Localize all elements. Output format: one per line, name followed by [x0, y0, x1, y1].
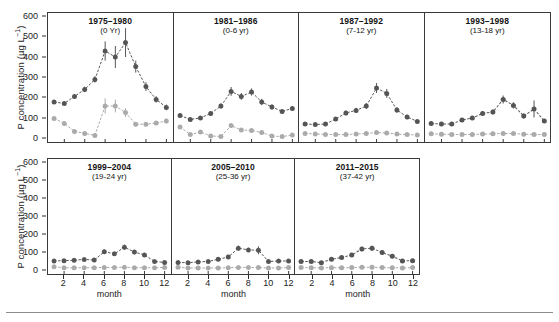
- data-point-marker: [313, 122, 318, 127]
- data-point-marker: [52, 100, 57, 105]
- y-tick-mark: [42, 179, 46, 180]
- data-point-marker: [82, 131, 87, 136]
- data-point-marker: [400, 258, 405, 263]
- panel-plot-area: [172, 159, 295, 274]
- data-point-marker: [113, 104, 118, 109]
- data-point-marker: [384, 131, 389, 136]
- data-point-marker: [333, 117, 338, 122]
- data-point-marker: [102, 265, 107, 270]
- data-point-marker: [175, 260, 180, 265]
- panel-strip: 1999–2004(19-24 yr)2005–2010(25-36 yr)20…: [47, 158, 420, 275]
- series-line: [305, 133, 417, 135]
- data-point-marker: [152, 265, 157, 270]
- data-point-marker: [269, 134, 274, 139]
- data-point-marker: [249, 90, 254, 95]
- data-point-marker: [374, 86, 379, 91]
- data-point-marker: [354, 132, 359, 137]
- data-point-marker: [72, 265, 77, 270]
- data-point-marker: [72, 129, 77, 134]
- data-point-marker: [428, 121, 433, 126]
- data-point-marker: [510, 131, 515, 136]
- y-tick-mark: [42, 117, 46, 118]
- data-point-marker: [480, 132, 485, 137]
- data-point-marker: [215, 257, 220, 262]
- data-point-marker: [143, 122, 148, 127]
- data-point-marker: [132, 265, 137, 270]
- panel-plot-area: [174, 13, 299, 142]
- y-tick-mark: [42, 97, 46, 98]
- data-point-marker: [208, 111, 213, 116]
- series-line: [54, 43, 166, 108]
- data-point-marker: [350, 252, 355, 257]
- data-point-marker: [236, 265, 241, 270]
- data-point-marker: [215, 265, 220, 270]
- data-point-marker: [164, 119, 169, 124]
- data-point-marker: [123, 40, 128, 45]
- data-point-marker: [238, 94, 243, 99]
- series-line: [54, 247, 165, 262]
- data-point-marker: [225, 255, 230, 260]
- y-tick-label: 200: [23, 93, 38, 102]
- data-point-marker: [205, 265, 210, 270]
- data-point-marker: [299, 265, 304, 270]
- data-point-marker: [143, 84, 148, 89]
- x-axis-title: month: [47, 289, 171, 299]
- data-point-marker: [102, 249, 107, 254]
- data-point-marker: [133, 122, 138, 127]
- y-tick-mark: [42, 216, 46, 217]
- data-point-marker: [276, 258, 281, 263]
- chart-panel: 1981–1986(0-6 yr): [174, 13, 300, 142]
- data-point-marker: [185, 265, 190, 270]
- data-point-marker: [225, 265, 230, 270]
- data-point-marker: [249, 128, 254, 133]
- chart-panel: 2005–2010(25-36 yr): [172, 159, 296, 274]
- data-point-marker: [236, 246, 241, 251]
- x-axis-title: month: [171, 289, 295, 299]
- data-point-marker: [541, 132, 546, 137]
- data-point-marker: [238, 128, 243, 133]
- series-line: [431, 99, 544, 124]
- data-point-marker: [360, 265, 365, 270]
- x-tick-label: 12: [159, 279, 169, 288]
- data-point-marker: [218, 134, 223, 139]
- data-point-marker: [72, 258, 77, 263]
- y-tick-label: 200: [23, 230, 38, 239]
- data-point-marker: [276, 265, 281, 270]
- y-tick-mark: [42, 252, 46, 253]
- data-point-marker: [319, 260, 324, 265]
- x-tick-label: 2: [185, 279, 190, 288]
- y-tick-mark: [42, 76, 46, 77]
- data-point-marker: [185, 260, 190, 265]
- data-point-marker: [428, 131, 433, 136]
- data-point-marker: [92, 77, 97, 82]
- data-point-marker: [208, 134, 213, 139]
- data-point-marker: [531, 132, 536, 137]
- data-point-marker: [309, 259, 314, 264]
- x-tick-label: 4: [330, 279, 335, 288]
- y-tick-label: 500: [23, 175, 38, 184]
- data-point-marker: [164, 105, 169, 110]
- data-point-marker: [299, 259, 304, 264]
- data-point-marker: [52, 116, 57, 121]
- data-point-marker: [309, 265, 314, 270]
- data-point-marker: [175, 265, 180, 270]
- series-line: [301, 267, 412, 268]
- data-point-marker: [266, 259, 271, 264]
- data-point-marker: [364, 131, 369, 136]
- data-point-marker: [303, 131, 308, 136]
- data-point-marker: [350, 265, 355, 270]
- panel-plot-area: [48, 159, 171, 274]
- series-line: [180, 91, 292, 119]
- panel-strip: 1975–1980(0 Yr)1981–1986(0-6 yr)1987–199…: [47, 12, 551, 143]
- data-point-marker: [384, 91, 389, 96]
- data-point-marker: [279, 109, 284, 114]
- data-point-marker: [82, 87, 87, 92]
- x-tick-label: 6: [350, 279, 355, 288]
- y-tick-label: 500: [23, 32, 38, 41]
- data-point-marker: [269, 105, 274, 110]
- y-tick-mark: [42, 16, 46, 17]
- data-point-marker: [187, 132, 192, 137]
- data-point-marker: [410, 265, 415, 270]
- series-line: [301, 248, 412, 263]
- x-tick-label: 10: [263, 279, 273, 288]
